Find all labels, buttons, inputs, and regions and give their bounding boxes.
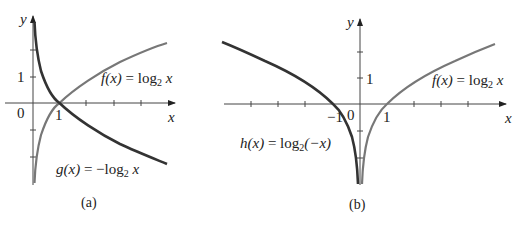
panel-b-y-axis-label: y (347, 15, 354, 30)
panel-a-caption: (a) (81, 196, 97, 210)
panel-b-x-neg-one-label: −1 (327, 110, 343, 125)
panel-a-origin-label: 0 (17, 106, 25, 121)
panel-b-x-one-label: 1 (383, 110, 391, 125)
graphs-canvas (0, 0, 522, 227)
panel-a-y-one-label: 1 (17, 70, 25, 85)
panel-a-f-label: f(x) = log2 x (101, 71, 172, 88)
panel-b-y-one-label: 1 (366, 72, 374, 87)
panel-a-g-label: g(x) = −log2 x (56, 162, 139, 179)
panel-a-y-axis-label: y (20, 12, 27, 27)
panel-a-x-one-label: 1 (55, 108, 63, 123)
panel-b-curve-f (362, 44, 495, 184)
panel-b-caption: (b) (349, 198, 365, 212)
panel-a-curve-g (35, 22, 168, 164)
panel-b-axes (224, 19, 506, 185)
panel-b-origin-label: 0 (347, 108, 355, 123)
panel-b-f-label: f(x) = log2 x (432, 73, 503, 90)
panel-b-x-axis-label: x (505, 111, 512, 126)
panel-b-h-label: h(x) = log2(−x) (240, 136, 331, 153)
panel-a-axes (5, 16, 175, 185)
panel-a-x-axis-label: x (168, 110, 175, 125)
